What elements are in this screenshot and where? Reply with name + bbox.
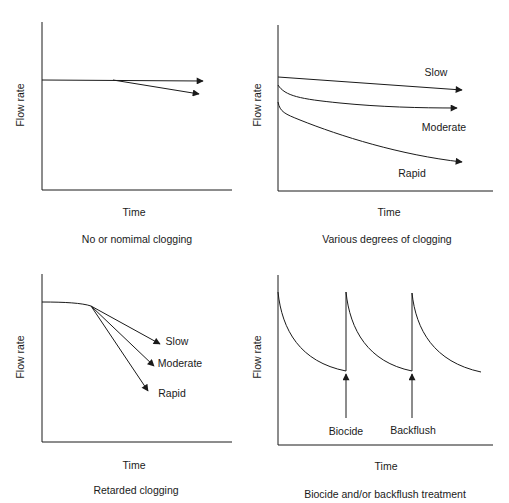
x-axis-label: Time — [375, 460, 398, 472]
curve-label-moderate: Moderate — [158, 357, 202, 369]
x-axis-label: Time — [123, 459, 146, 471]
y-axis-label: Flow rate — [14, 83, 26, 126]
panel-caption: Retarded clogging — [93, 484, 178, 496]
panel-various-clogging — [278, 25, 493, 191]
y-axis-label: Flow rate — [251, 335, 263, 378]
rapid-line — [91, 306, 148, 391]
flat-flow-line — [42, 80, 203, 81]
panel-caption: Various degrees of clogging — [322, 233, 451, 245]
panel-retarded-clogging — [42, 274, 232, 442]
curve-label-slow: Slow — [166, 335, 189, 347]
backflush-label: Backflush — [390, 424, 436, 436]
x-axis-label: Time — [123, 206, 146, 218]
panel-biocide-backflush — [278, 275, 493, 445]
curve-label-rapid: Rapid — [158, 387, 185, 399]
y-axis-label: Flow rate — [251, 83, 263, 126]
curve-label-slow: Slow — [425, 66, 448, 78]
initial-flat-curve — [42, 302, 91, 306]
slow-curve — [278, 77, 462, 90]
moderate-curve — [278, 85, 457, 108]
slight-decline-line — [113, 80, 199, 94]
biocide-label: Biocide — [329, 425, 363, 437]
x-axis-label: Time — [378, 206, 401, 218]
panel-caption: No or nomimal clogging — [82, 233, 192, 245]
curve-label-moderate: Moderate — [422, 121, 466, 133]
sawtooth-flow-curve — [278, 292, 481, 372]
panel-caption: Biocide and/or backflush treatment — [304, 488, 466, 500]
y-axis-label: Flow rate — [14, 335, 26, 378]
curve-label-rapid: Rapid — [398, 167, 425, 179]
panel-no-clogging — [42, 22, 232, 190]
